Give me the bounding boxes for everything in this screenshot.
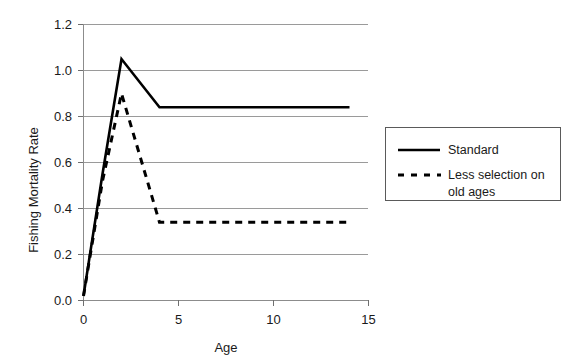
series-line-less-selection <box>84 94 350 296</box>
x-tick-label: 0 <box>80 312 87 327</box>
legend-label-standard: Standard <box>448 143 499 157</box>
y-tick-marks <box>78 25 83 301</box>
legend-label-less-selection-line1: Less selection on <box>448 168 545 182</box>
y-axis-title: Fishing Mortality Rate <box>26 127 41 253</box>
gridlines <box>83 25 368 255</box>
y-tick-label: 1.0 <box>54 63 72 78</box>
y-tick-label: 0.6 <box>54 155 72 170</box>
x-tick-label: 5 <box>175 312 182 327</box>
x-tick-labels: 0 5 10 15 <box>80 312 376 327</box>
y-tick-labels: 1.2 1.0 0.8 0.6 0.4 0.2 0.0 <box>54 17 72 308</box>
series-group <box>84 59 350 296</box>
x-axis-title: Age <box>214 340 237 355</box>
x-tick-label: 15 <box>361 312 375 327</box>
series-line-standard <box>84 59 350 296</box>
legend: Standard Less selection on old ages <box>386 128 561 201</box>
x-tick-label: 10 <box>266 312 280 327</box>
y-tick-label: 0.8 <box>54 109 72 124</box>
y-tick-label: 0.2 <box>54 247 72 262</box>
y-tick-label: 0.4 <box>54 201 72 216</box>
y-tick-label: 0.0 <box>54 293 72 308</box>
y-tick-label: 1.2 <box>54 17 72 32</box>
chart-figure: 1.2 1.0 0.8 0.6 0.4 0.2 0.0 0 5 10 15 Fi… <box>0 0 576 364</box>
legend-label-less-selection-line2: old ages <box>448 185 495 199</box>
chart-svg: 1.2 1.0 0.8 0.6 0.4 0.2 0.0 0 5 10 15 Fi… <box>0 0 576 364</box>
